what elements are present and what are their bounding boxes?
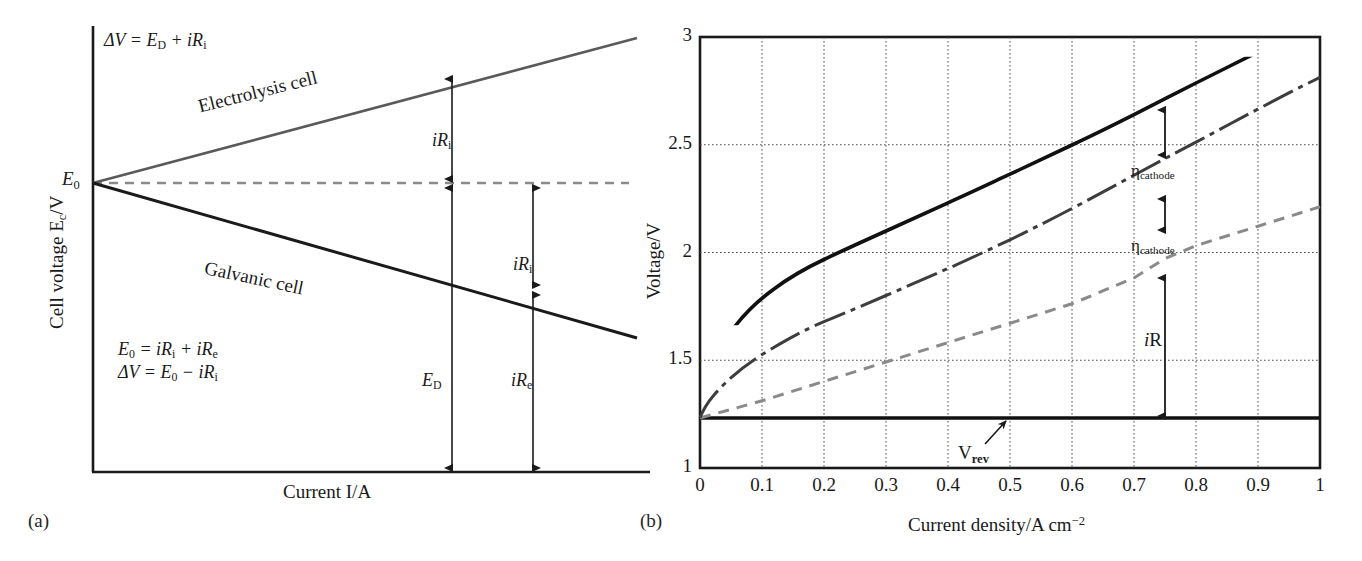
panel-a-y-axis-label: Cell voltage Ec/V — [46, 142, 71, 382]
panel-a-annotation-iri-top: iRi — [432, 130, 451, 153]
panel-b-x-tick-label: 0.3 — [864, 474, 908, 496]
panel-b-x-tick-label: 0.2 — [802, 474, 846, 496]
panel-b-y-tick-label: 3 — [648, 24, 692, 46]
panel-b-annotation-eta-upper: ηcathode — [1131, 161, 1175, 181]
panel-a-electrolysis-line — [93, 38, 637, 183]
panel-b-x-axis-label: Current density/A cm−2 — [908, 514, 1085, 536]
panel-b-caption: (b) — [640, 510, 662, 532]
panel-a-galvanic-line — [93, 183, 637, 338]
panel-a-annotation-ed: ED — [422, 370, 442, 393]
panel-b-x-tick-label: 0.8 — [1174, 474, 1218, 496]
panel-b-x-tick-label: 0 — [678, 474, 722, 496]
panel-b-y-tick-label: 1.5 — [648, 347, 692, 369]
panel-a-equation-b1: E0 = iRi + iRe — [118, 339, 218, 362]
panel-a-plot — [92, 26, 650, 472]
panel-a-equation-b2: ΔV = E0 − iRi — [118, 362, 218, 385]
panel-b-x-tick-label: 0.7 — [1112, 474, 1156, 496]
panel-a-annotation-iri-mid: iRi — [513, 254, 532, 277]
panel-b-x-tick-label: 0.5 — [988, 474, 1032, 496]
panel-b-y-tick-label: 2.5 — [648, 132, 692, 154]
panel-b-y-tick-label: 2 — [648, 240, 692, 262]
panel-b-arrow-vrev-pointer — [985, 421, 1006, 444]
panel-b-x-tick-label: 1 — [1298, 474, 1342, 496]
panel-b-x-tick-label: 0.1 — [740, 474, 784, 496]
panel-b-x-tick-label: 0.6 — [1050, 474, 1094, 496]
panel-b-annotation-eta-lower: ηcathode — [1131, 236, 1175, 256]
panel-a-equation-top: ΔV = ED + iRi — [104, 30, 206, 53]
panel-b-plot — [700, 21, 1320, 468]
panel-b-annotation-iR: iR — [1144, 329, 1162, 351]
panel-b-x-tick-label: 0.4 — [926, 474, 970, 496]
figure-container: ΔV = ED + iRi E0 = iRi + iRe ΔV = E0 − i… — [0, 0, 1362, 561]
panel-a-caption: (a) — [28, 510, 49, 532]
panel-b-x-tick-label: 0.9 — [1236, 474, 1280, 496]
panel-a-annotation-ire: iRe — [511, 370, 532, 393]
panel-a-x-axis-label: Current I/A — [283, 481, 371, 503]
panel-b-annotation-vrev: Vrev — [958, 442, 989, 467]
